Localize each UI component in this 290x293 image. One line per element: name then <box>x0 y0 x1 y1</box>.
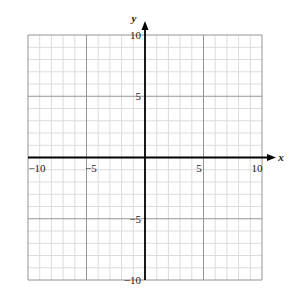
y-axis-name-label: y <box>130 12 137 24</box>
y-tick-label-pos10: 10 <box>130 29 142 41</box>
x-tick-label-pos5: 5 <box>196 162 202 174</box>
x-tick-label-neg5: −5 <box>85 162 97 174</box>
coordinate-plane-figure: −10 −5 5 10 10 5 −5 −10 y x <box>0 0 290 293</box>
x-tick-label-pos10: 10 <box>252 162 264 174</box>
y-axis-arrow-icon <box>142 21 149 30</box>
y-tick-label-pos5: 5 <box>136 90 142 102</box>
graph-canvas: −10 −5 5 10 10 5 −5 −10 y x <box>0 0 290 293</box>
x-axis-name-label: x <box>277 151 284 163</box>
x-axis-arrow-icon <box>267 154 276 161</box>
y-tick-label-neg5: −5 <box>129 213 141 225</box>
y-tick-label-neg10: −10 <box>124 274 142 286</box>
x-tick-label-neg10: −10 <box>28 162 46 174</box>
